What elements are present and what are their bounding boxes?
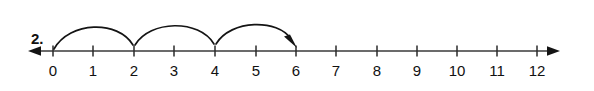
tick-label-2: 2 — [130, 62, 138, 79]
jump-arc-4-to-6 — [216, 25, 291, 44]
tick-label-1: 1 — [89, 62, 97, 79]
jump-arc-2-to-4 — [135, 26, 214, 45]
tick-label-10: 10 — [449, 62, 466, 79]
axis-right-arrow-icon — [547, 46, 560, 55]
jump-arrow-head-icon — [284, 35, 297, 49]
tick-label-7: 7 — [332, 62, 340, 79]
tick-label-8: 8 — [373, 62, 381, 79]
tick-label-0: 0 — [49, 62, 57, 79]
tick-label-5: 5 — [252, 62, 260, 79]
tick-label-4: 4 — [211, 62, 219, 79]
tick-label-12: 12 — [529, 62, 546, 79]
tick-label-9: 9 — [413, 62, 421, 79]
number-line-worksheet-item: 2. 0 1 2 3 4 5 6 7 8 9 10 11 12 — [0, 0, 594, 91]
axis-left-arrow-icon — [28, 46, 41, 55]
tick-label-3: 3 — [170, 62, 178, 79]
tick-label-11: 11 — [489, 62, 505, 79]
tick-label-6: 6 — [292, 62, 300, 79]
problem-number-label: 2. — [31, 30, 44, 47]
number-line-diagram: 2. 0 1 2 3 4 5 6 7 8 9 10 11 12 — [0, 0, 594, 91]
